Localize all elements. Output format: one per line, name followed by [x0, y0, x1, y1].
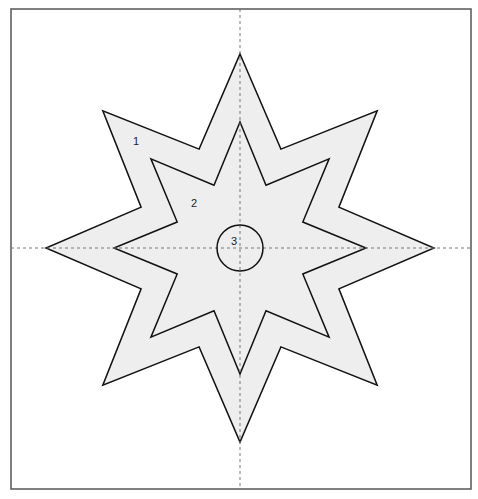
- label-3: 3: [231, 235, 237, 247]
- label-2: 2: [191, 197, 197, 209]
- star-diagram: 1 2 3: [0, 0, 478, 499]
- label-1: 1: [133, 135, 139, 147]
